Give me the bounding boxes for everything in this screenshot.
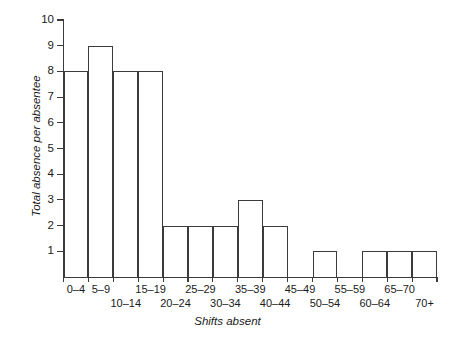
y-tick-mark — [57, 199, 63, 200]
histogram-bar — [138, 71, 163, 277]
y-tick-label-wrap: 5 — [0, 143, 54, 155]
y-tick-label-wrap: 7 — [0, 91, 54, 103]
y-tick-mark — [57, 71, 63, 72]
x-tick-mark — [113, 277, 114, 282]
x-tick-mark — [163, 277, 164, 282]
x-axis-title: Shifts absent — [0, 315, 455, 327]
y-tick-label-wrap: 9 — [0, 40, 54, 52]
histogram-bar — [238, 200, 263, 277]
histogram-bar — [88, 46, 113, 277]
y-axis-title: Total absence per absentee — [30, 46, 42, 246]
x-tick-mark — [138, 277, 139, 282]
histogram-bar — [412, 251, 437, 277]
x-tick-mark — [412, 277, 413, 282]
x-tick-mark — [287, 277, 288, 282]
x-tick-mark — [88, 277, 89, 282]
histogram-bar — [163, 226, 188, 277]
y-tick-label-wrap: 10 — [0, 14, 54, 26]
histogram-bar — [263, 226, 288, 277]
x-tick-mark — [212, 277, 213, 282]
histogram-bar — [213, 226, 238, 277]
y-tick-label-wrap: 1 — [0, 245, 54, 257]
y-tick-label-wrap: 3 — [0, 194, 54, 206]
x-tick-mark — [312, 277, 313, 282]
y-tick-label: 1 — [8, 245, 54, 257]
y-tick-mark — [57, 45, 63, 46]
x-tick-mark — [337, 277, 338, 282]
x-tick-label: 65–70 — [370, 283, 430, 295]
y-tick-mark — [57, 19, 63, 20]
x-tick-mark — [63, 277, 64, 282]
histogram-bar — [64, 71, 89, 277]
x-tick-label: 70+ — [395, 297, 455, 309]
x-tick-mark — [362, 277, 363, 282]
x-tick-mark — [387, 277, 388, 282]
y-tick-label-wrap: 2 — [0, 220, 54, 232]
y-tick-mark — [57, 122, 63, 123]
y-tick-mark — [57, 148, 63, 149]
y-tick-label-wrap: 8 — [0, 65, 54, 77]
histogram-bar — [313, 251, 338, 277]
histogram-bar — [113, 71, 138, 277]
histogram-bar — [188, 226, 213, 277]
histogram-bar — [362, 251, 387, 277]
y-tick-mark — [57, 225, 63, 226]
x-tick-mark — [436, 277, 437, 282]
x-tick-mark — [237, 277, 238, 282]
x-tick-mark — [262, 277, 263, 282]
y-tick-label-wrap: 6 — [0, 117, 54, 129]
y-tick-mark — [57, 174, 63, 175]
histogram-chart: 12345678910 Total absence per absentee 0… — [0, 0, 455, 339]
histogram-bar — [387, 251, 412, 277]
y-tick-label-wrap: 4 — [0, 168, 54, 180]
x-tick-mark — [187, 277, 188, 282]
y-tick-label: 10 — [8, 14, 54, 26]
x-axis-baseline — [63, 277, 437, 278]
y-tick-mark — [57, 251, 63, 252]
y-tick-mark — [57, 97, 63, 98]
